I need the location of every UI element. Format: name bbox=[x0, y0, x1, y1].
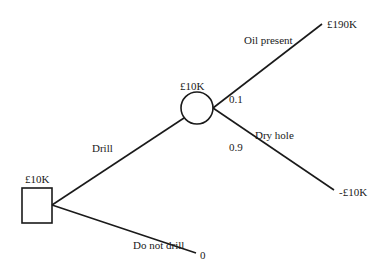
branch-drill-line bbox=[52, 118, 184, 205]
branch-oil-present-payoff: £190K bbox=[327, 19, 357, 30]
decision-node-square bbox=[22, 188, 52, 223]
branch-do-not-drill-payoff: 0 bbox=[200, 250, 206, 261]
decision-node-value: £10K bbox=[25, 174, 49, 185]
branch-do-not-drill-label: Do not drill bbox=[133, 240, 184, 251]
branch-dry-hole-probability: 0.9 bbox=[229, 142, 243, 153]
branch-dry-hole-payoff: -£10K bbox=[339, 187, 367, 198]
branch-oil-present-probability: 0.1 bbox=[229, 94, 243, 105]
decision-tree-canvas bbox=[0, 0, 390, 276]
branch-dry-hole-label: Dry hole bbox=[255, 130, 294, 141]
chance-node-value: £10K bbox=[180, 81, 204, 92]
branch-oil-present-label: Oil present bbox=[244, 35, 293, 46]
chance-node-circle bbox=[181, 92, 213, 124]
branch-drill-label: Drill bbox=[92, 143, 113, 154]
